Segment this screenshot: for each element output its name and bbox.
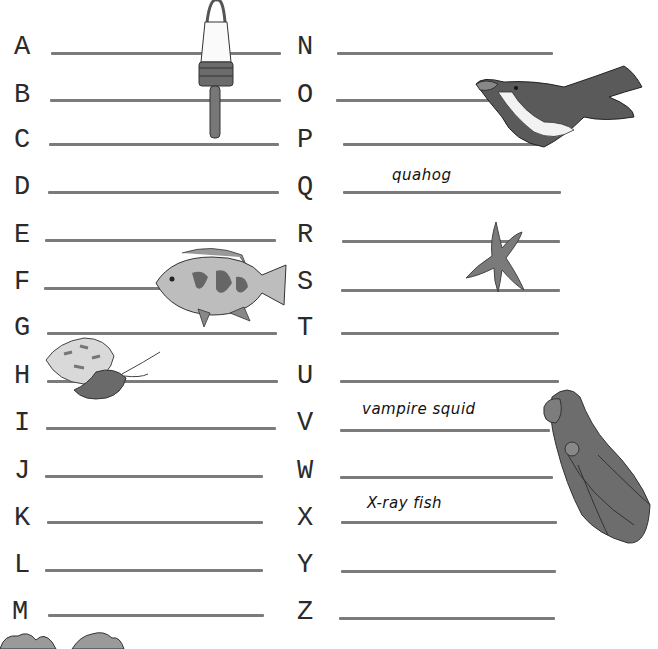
letter-label: A <box>14 32 30 62</box>
letter-label: V <box>297 408 313 438</box>
letter-label: E <box>14 220 30 250</box>
answer-line-v[interactable] <box>340 429 550 432</box>
row-j: J <box>14 456 274 486</box>
answer-line-y[interactable] <box>341 570 556 573</box>
answer-line-b[interactable] <box>50 99 281 102</box>
row-l: L <box>14 550 274 580</box>
fish-icon <box>152 243 290 331</box>
answer-line-x[interactable] <box>341 521 557 524</box>
letter-label: P <box>297 125 313 155</box>
starfish-icon <box>462 220 534 294</box>
letter-label: X <box>297 503 313 533</box>
answer-line-m[interactable] <box>48 614 264 617</box>
answer-line-c[interactable] <box>49 143 279 146</box>
letter-label: J <box>14 456 30 486</box>
answer-line-j[interactable] <box>45 475 263 478</box>
row-z: Z <box>297 597 637 627</box>
answer-line-z[interactable] <box>339 617 555 620</box>
answer-line-i[interactable] <box>46 427 276 430</box>
hermit-crab-icon <box>44 332 162 404</box>
letter-label: M <box>12 597 28 627</box>
answer-text-v[interactable]: vampire squid <box>362 400 476 418</box>
row-a: A <box>14 32 274 62</box>
answer-line-w[interactable] <box>340 476 553 479</box>
letter-label: C <box>14 125 30 155</box>
answer-line-k[interactable] <box>47 521 263 524</box>
row-i: I <box>14 408 274 438</box>
answer-text-q[interactable]: quahog <box>392 166 451 184</box>
penguin-icon <box>474 62 646 152</box>
letter-label: O <box>297 80 313 110</box>
answer-text-x[interactable]: X-ray fish <box>367 494 442 512</box>
answer-line-e[interactable] <box>45 239 276 242</box>
letter-label: T <box>297 313 313 343</box>
row-c: C <box>14 125 274 155</box>
row-b: B <box>14 80 274 110</box>
alphabet-worksheet: A B C D E F G H I J K L <box>0 0 658 649</box>
letter-label: N <box>297 32 313 62</box>
row-n: N <box>297 32 637 62</box>
answer-line-d[interactable] <box>48 191 279 194</box>
letter-label: U <box>297 361 313 391</box>
letter-label: F <box>14 267 30 297</box>
answer-line-n[interactable] <box>337 52 553 55</box>
letter-label: R <box>297 220 313 250</box>
row-d: D <box>14 172 274 202</box>
letter-label: S <box>297 267 313 297</box>
answer-line-u[interactable] <box>340 380 559 383</box>
answer-line-t[interactable] <box>341 332 559 335</box>
row-k: K <box>14 503 274 533</box>
letter-label: K <box>14 503 30 533</box>
letter-label: D <box>14 172 30 202</box>
letter-label: Z <box>297 597 313 627</box>
letter-label: B <box>14 80 30 110</box>
letter-label: Q <box>297 172 313 202</box>
letter-label: H <box>14 361 30 391</box>
row-t: T <box>297 313 637 343</box>
letter-label: I <box>14 408 30 438</box>
letter-label: Y <box>297 550 313 580</box>
answer-line-l[interactable] <box>45 569 263 572</box>
row-m: M <box>14 597 274 627</box>
vampire-squid-icon <box>538 385 658 555</box>
letter-label: G <box>14 313 30 343</box>
coral-icon <box>0 630 126 649</box>
letter-label: L <box>14 550 30 580</box>
lobster-buoy-icon <box>195 0 235 142</box>
letter-label: W <box>297 456 313 486</box>
answer-line-q[interactable] <box>343 191 561 194</box>
row-q: Q quahog <box>297 172 637 202</box>
answer-line-a[interactable] <box>51 52 281 55</box>
